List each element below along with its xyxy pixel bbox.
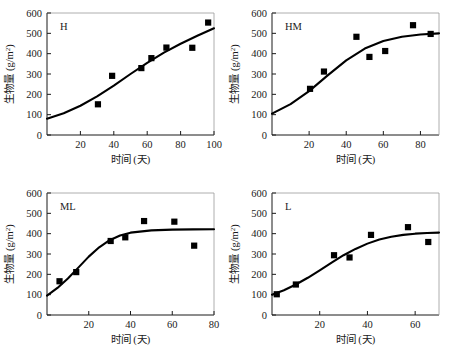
x-axis-title: 时间 (天) <box>111 333 151 346</box>
y-tick-label: 100 <box>251 109 267 120</box>
data-point-marker <box>382 48 388 54</box>
x-axis-l: 204060 <box>314 311 420 330</box>
data-point-marker <box>73 269 79 275</box>
panel-l: 0100200300400500600204060L时间 (天)生物量 (g/m… <box>225 180 449 360</box>
y-tick-label: 100 <box>251 289 267 300</box>
data-point-marker <box>171 219 177 225</box>
y-tick-label: 500 <box>26 208 42 219</box>
svg-text:生物量 (g/m2): 生物量 (g/m2) <box>228 224 241 284</box>
x-tick-label: 40 <box>109 139 120 150</box>
panel-label-h: H <box>60 21 68 32</box>
data-point-marker <box>307 86 313 92</box>
panel-ml: 010020030040050060020406080ML时间 (天)生物量 (… <box>0 180 224 360</box>
fitted-curve-ml <box>47 229 214 295</box>
x-axis-title: 时间 (天) <box>336 153 376 166</box>
x-tick-label: 40 <box>341 139 352 150</box>
data-points-h <box>95 19 211 107</box>
y-tick-label: 0 <box>262 310 267 321</box>
x-axis-hm: 20406080 <box>304 131 426 150</box>
data-point-marker <box>321 68 327 74</box>
plot-hm: 010020030040050060020406080HM时间 (天)生物量 (… <box>225 0 449 180</box>
x-tick-label: 60 <box>142 139 153 150</box>
x-tick-label: 60 <box>167 319 178 330</box>
data-point-marker <box>293 281 299 287</box>
y-tick-label: 400 <box>251 228 267 239</box>
data-point-marker <box>189 45 195 51</box>
y-tick-label: 100 <box>26 109 42 120</box>
x-tick-label: 60 <box>378 139 389 150</box>
x-axis-h: 20406080100 <box>75 131 222 150</box>
x-tick-label: 20 <box>304 139 315 150</box>
axes-frame-l <box>272 193 439 315</box>
data-point-marker <box>95 101 101 107</box>
y-tick-label: 400 <box>26 228 42 239</box>
svg-text:生物量 (g/m2): 生物量 (g/m2) <box>228 44 241 104</box>
biomass-growth-figure: 010020030040050060020406080100H时间 (天)生物量… <box>0 0 449 361</box>
x-tick-label: 80 <box>415 139 426 150</box>
fitted-curve-hm <box>272 33 439 113</box>
panel-label-ml: ML <box>60 201 76 212</box>
data-point-marker <box>205 19 211 25</box>
x-axis-title: 时间 (天) <box>111 153 151 166</box>
y-tick-label: 300 <box>26 249 42 260</box>
panel-label-hm: HM <box>285 21 303 32</box>
y-tick-label: 0 <box>37 130 42 141</box>
y-tick-label: 600 <box>26 188 42 199</box>
data-point-marker <box>148 55 154 61</box>
data-points-ml <box>56 218 197 284</box>
data-point-marker <box>163 44 169 50</box>
data-point-marker <box>56 278 62 284</box>
y-tick-label: 600 <box>26 8 42 19</box>
data-points-hm <box>307 22 434 92</box>
y-tick-label: 200 <box>251 89 267 100</box>
y-axis-title: 生物量 (g/m2) <box>228 44 241 104</box>
plot-h: 010020030040050060020406080100H时间 (天)生物量… <box>0 0 224 180</box>
panel-h: 010020030040050060020406080100H时间 (天)生物量… <box>0 0 224 180</box>
y-tick-label: 200 <box>251 269 267 280</box>
y-tick-label: 600 <box>251 8 267 19</box>
fitted-curve-h <box>47 28 214 118</box>
x-axis-title: 时间 (天) <box>336 333 376 346</box>
y-tick-label: 300 <box>251 69 267 80</box>
x-tick-label: 40 <box>362 319 373 330</box>
data-point-marker <box>366 54 372 60</box>
data-point-marker <box>108 238 114 244</box>
data-point-marker <box>353 34 359 40</box>
x-tick-label: 20 <box>314 319 325 330</box>
panel-hm: 010020030040050060020406080HM时间 (天)生物量 (… <box>225 0 449 180</box>
x-tick-label: 60 <box>410 319 421 330</box>
y-tick-label: 600 <box>251 188 267 199</box>
data-point-marker <box>346 254 352 260</box>
svg-text:生物量 (g/m2): 生物量 (g/m2) <box>3 224 16 284</box>
plot-ml: 010020030040050060020406080ML时间 (天)生物量 (… <box>0 180 224 360</box>
y-tick-label: 300 <box>251 249 267 260</box>
y-axis-title: 生物量 (g/m2) <box>228 224 241 284</box>
x-tick-label: 80 <box>209 319 220 330</box>
y-axis-title: 生物量 (g/m2) <box>3 44 16 104</box>
y-tick-label: 300 <box>26 69 42 80</box>
data-point-marker <box>368 232 374 238</box>
x-tick-label: 100 <box>206 139 222 150</box>
data-point-marker <box>425 239 431 245</box>
y-tick-label: 200 <box>26 269 42 280</box>
y-tick-label: 400 <box>26 48 42 59</box>
y-tick-label: 500 <box>251 28 267 39</box>
plot-l: 0100200300400500600204060L时间 (天)生物量 (g/m… <box>225 180 449 360</box>
y-tick-label: 100 <box>26 289 42 300</box>
y-tick-label: 500 <box>251 208 267 219</box>
data-point-marker <box>405 224 411 230</box>
y-tick-label: 500 <box>26 28 42 39</box>
data-point-marker <box>122 234 128 240</box>
data-point-marker <box>109 73 115 79</box>
x-tick-label: 20 <box>84 319 95 330</box>
data-point-marker <box>274 291 280 297</box>
data-point-marker <box>410 22 416 28</box>
y-tick-label: 400 <box>251 48 267 59</box>
data-point-marker <box>428 31 434 37</box>
panel-label-l: L <box>285 201 291 212</box>
x-axis-ml: 20406080 <box>84 311 220 330</box>
data-point-marker <box>138 65 144 71</box>
x-tick-label: 80 <box>175 139 186 150</box>
x-tick-label: 20 <box>75 139 86 150</box>
y-tick-label: 0 <box>262 130 267 141</box>
